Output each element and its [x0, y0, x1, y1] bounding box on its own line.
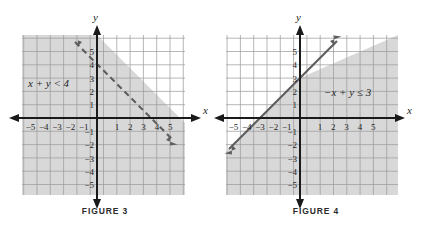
svg-text:−3: −3	[84, 154, 94, 164]
svg-text:−4: −4	[84, 167, 94, 177]
y-axis-label-fig4: y	[295, 11, 301, 23]
svg-text:−1: −1	[84, 127, 94, 137]
inequality-label-fig3: x + y < 4	[27, 77, 70, 89]
svg-text:1: 1	[293, 100, 298, 110]
svg-text:−3: −3	[287, 154, 297, 164]
svg-text:−2: −2	[66, 122, 76, 132]
y-axis-label-fig3: y	[92, 11, 98, 23]
figure-4-caption: FIGURE 4	[211, 206, 421, 216]
svg-text:5: 5	[371, 122, 376, 132]
inequality-label-fig4: −x + y ≤ 3	[324, 86, 372, 98]
figure-4: x y −5 −4 −3 −2 −1 1 2 3 4 5 5 4 3 2	[211, 0, 421, 233]
svg-text:2: 2	[128, 122, 133, 132]
figure-pair-page: x y −5 −4 −3 −2 −1 1 2 3 4 5 5 4 3 2	[0, 0, 421, 233]
figure-3: x y −5 −4 −3 −2 −1 1 2 3 4 5 5 4 3 2	[0, 0, 210, 233]
figure-3-caption: FIGURE 3	[0, 206, 210, 216]
svg-text:4: 4	[358, 122, 363, 132]
svg-text:1: 1	[90, 100, 95, 110]
figure-3-plot: x y −5 −4 −3 −2 −1 1 2 3 4 5 5 4 3 2	[0, 0, 210, 233]
svg-text:2: 2	[90, 87, 95, 97]
svg-text:−2: −2	[84, 140, 94, 150]
svg-text:4: 4	[293, 60, 298, 70]
svg-text:2: 2	[331, 122, 336, 132]
svg-text:4: 4	[90, 60, 95, 70]
svg-text:4: 4	[155, 122, 160, 132]
svg-text:−1: −1	[287, 127, 297, 137]
svg-text:5: 5	[168, 122, 173, 132]
svg-text:1: 1	[115, 122, 120, 132]
svg-text:−5: −5	[287, 180, 297, 190]
svg-text:3: 3	[293, 74, 298, 84]
svg-text:−4: −4	[242, 122, 252, 132]
svg-text:−5: −5	[229, 122, 239, 132]
svg-text:1: 1	[318, 122, 323, 132]
svg-text:−2: −2	[287, 140, 297, 150]
svg-text:5: 5	[90, 47, 95, 57]
x-axis-label-fig3: x	[202, 104, 208, 116]
svg-text:3: 3	[344, 122, 349, 132]
svg-text:−4: −4	[39, 122, 49, 132]
svg-text:2: 2	[293, 87, 298, 97]
svg-text:−5: −5	[84, 180, 94, 190]
svg-text:5: 5	[293, 47, 298, 57]
figure-4-plot: x y −5 −4 −3 −2 −1 1 2 3 4 5 5 4 3 2	[211, 0, 421, 233]
svg-text:−4: −4	[287, 167, 297, 177]
svg-text:3: 3	[90, 74, 95, 84]
svg-text:−5: −5	[26, 122, 36, 132]
svg-text:−3: −3	[255, 122, 265, 132]
svg-text:3: 3	[141, 122, 146, 132]
x-axis-label-fig4: x	[406, 104, 412, 116]
svg-text:−3: −3	[52, 122, 62, 132]
svg-text:−2: −2	[269, 122, 279, 132]
